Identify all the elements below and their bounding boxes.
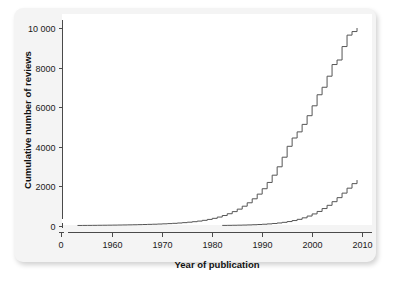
y-tick-label: 10 000 bbox=[28, 24, 56, 34]
plot-interior bbox=[62, 14, 372, 225]
x-tick-label: 2000 bbox=[302, 240, 322, 250]
x-tick-labels: 0196019701980199020002010 bbox=[58, 240, 372, 250]
y-tick-label: 6000 bbox=[35, 103, 55, 113]
x-axis-title: Year of publication bbox=[175, 259, 260, 270]
x-tick-marks bbox=[61, 233, 363, 237]
y-tick-label: 2000 bbox=[35, 182, 55, 192]
x-tick-label: 1970 bbox=[152, 240, 172, 250]
x-tick-label: 1990 bbox=[252, 240, 272, 250]
y-axis-title: Cumulative number of reviews bbox=[22, 51, 33, 189]
chart-plot-surface: 0200040006000800010 000 0196019701980199… bbox=[0, 0, 406, 284]
x-tick-label: 1960 bbox=[102, 240, 122, 250]
x-tick-label: 2010 bbox=[352, 240, 372, 250]
x-tick-label: 0 bbox=[58, 240, 63, 250]
figure-container: 0200040006000800010 000 0196019701980199… bbox=[0, 0, 406, 284]
y-tick-marks bbox=[59, 29, 63, 227]
y-tick-label: 0 bbox=[50, 222, 55, 232]
y-tick-label: 4000 bbox=[35, 143, 55, 153]
x-tick-label: 1980 bbox=[202, 240, 222, 250]
y-tick-label: 8000 bbox=[35, 64, 55, 74]
